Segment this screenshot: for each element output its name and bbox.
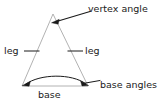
label-base: base: [38, 89, 61, 100]
base-angles-curve: [26, 76, 86, 84]
label-leg-right: leg: [85, 45, 100, 56]
vertex-angle-leader-line: [57, 12, 91, 22]
base-angles-leader: [22, 76, 100, 86]
label-leg-left: leg: [4, 45, 19, 56]
vertex-angle-leader: [52, 12, 91, 25]
label-vertex-angle: vertex angle: [88, 3, 148, 14]
label-base-angles: base angles: [100, 79, 157, 90]
base-angles-tail-line: [85, 81, 101, 84]
diagram-canvas: vertex angle leg leg base angles base: [0, 0, 162, 106]
isosceles-triangle-figure: [0, 0, 162, 106]
vertex-angle-arrowhead-icon: [52, 19, 60, 24]
triangle-shape: [22, 14, 88, 86]
triangle-outline: [22, 14, 88, 86]
